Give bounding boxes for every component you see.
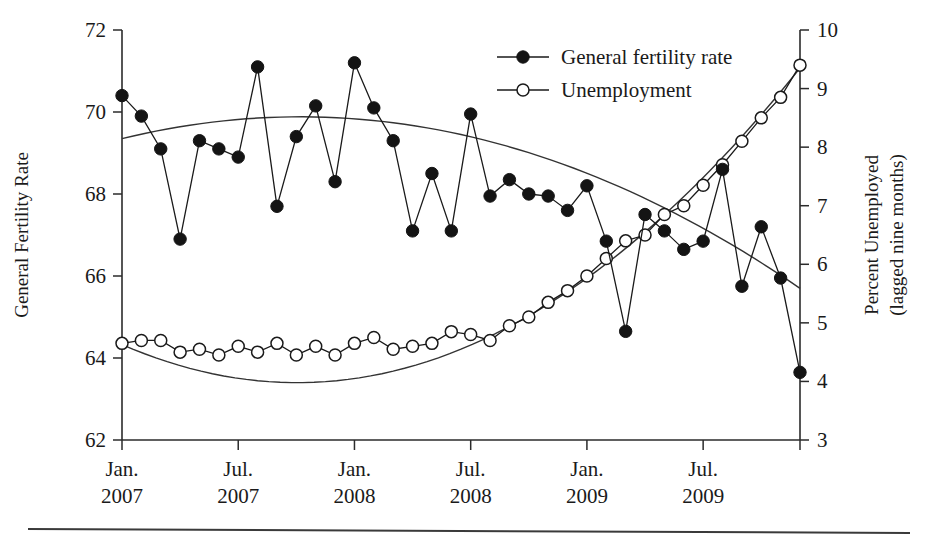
footer-divider xyxy=(28,529,910,533)
x-tick-label-month: Jan. xyxy=(570,457,603,481)
x-tick-label-month: Jul. xyxy=(456,457,486,481)
data-point-marker xyxy=(407,340,419,352)
x-tick-label-month: Jan. xyxy=(105,457,138,481)
data-point-marker xyxy=(484,190,496,202)
trend-lines-group xyxy=(122,68,800,383)
data-point-marker xyxy=(561,204,573,216)
right-tick-label: 3 xyxy=(817,428,828,452)
right-axis-title-line2: (lagged nine months) xyxy=(886,154,908,315)
left-axis-title: General Fertility Rate xyxy=(11,152,32,318)
data-point-marker xyxy=(503,320,515,332)
data-point-marker xyxy=(445,326,457,338)
x-tick-label-month: Jul. xyxy=(688,457,718,481)
data-point-marker xyxy=(310,100,322,112)
data-point-marker xyxy=(639,208,651,220)
data-point-marker xyxy=(116,89,128,101)
data-point-marker xyxy=(562,285,574,297)
left-axis: 727068666462 General Fertility Rate xyxy=(11,18,122,452)
right-axis-tick-labels: 109876543 xyxy=(817,18,838,452)
left-tick-label: 68 xyxy=(85,182,106,206)
x-axis-tick-labels: Jan.2007Jul.2007Jan.2008Jul.2008Jan.2009… xyxy=(101,457,724,508)
data-point-marker xyxy=(290,130,302,142)
data-point-marker xyxy=(716,163,728,175)
data-point-marker xyxy=(155,143,167,155)
series-general-fertility-rate xyxy=(116,57,806,379)
right-tick-label: 5 xyxy=(817,311,828,335)
right-tick-label: 9 xyxy=(817,77,828,101)
data-point-marker xyxy=(678,243,690,255)
data-point-marker xyxy=(232,340,244,352)
right-tick-label: 8 xyxy=(817,135,828,159)
x-tick-label-year: 2008 xyxy=(450,484,492,508)
data-point-marker xyxy=(329,176,341,188)
series-unemployment xyxy=(116,59,806,361)
data-point-marker xyxy=(348,57,360,69)
data-point-marker xyxy=(193,343,205,355)
data-point-marker xyxy=(116,337,128,349)
right-tick-label: 6 xyxy=(817,252,828,276)
data-point-marker xyxy=(310,340,322,352)
data-point-marker xyxy=(445,225,457,237)
data-point-marker xyxy=(135,110,147,122)
data-point-marker xyxy=(755,221,767,233)
data-point-marker xyxy=(581,270,593,282)
series-polyline xyxy=(122,63,800,373)
data-point-marker xyxy=(368,102,380,114)
data-point-marker xyxy=(290,349,302,361)
x-axis: Jan.2007Jul.2007Jan.2008Jul.2008Jan.2009… xyxy=(101,440,800,508)
data-point-marker xyxy=(387,135,399,147)
figure-container: 727068666462 General Fertility Rate 1098… xyxy=(0,0,937,550)
data-point-marker xyxy=(232,151,244,163)
data-point-marker xyxy=(251,61,263,73)
data-point-marker xyxy=(542,190,554,202)
right-axis-title-line1: Percent Unemployed xyxy=(861,155,882,315)
legend-label: Unemployment xyxy=(561,78,692,102)
right-tick-label: 4 xyxy=(817,369,828,393)
data-point-marker xyxy=(387,343,399,355)
data-point-marker xyxy=(135,334,147,346)
right-axis: 109876543 Percent Unemployed (lagged nin… xyxy=(800,18,908,452)
left-tick-label: 62 xyxy=(85,428,106,452)
data-point-marker xyxy=(794,366,806,378)
x-tick-label-year: 2009 xyxy=(682,484,724,508)
legend-label: General fertility rate xyxy=(561,45,732,69)
left-tick-label: 70 xyxy=(85,100,106,124)
data-point-marker xyxy=(523,311,535,323)
data-point-marker xyxy=(174,233,186,245)
data-point-marker xyxy=(774,272,786,284)
data-point-marker xyxy=(658,209,670,221)
chart-legend: General fertility rateUnemployment xyxy=(497,45,732,102)
legend-marker-filled-circle-icon xyxy=(517,51,529,63)
right-tick-label: 7 xyxy=(817,194,828,218)
data-point-marker xyxy=(542,296,554,308)
x-tick-label-year: 2009 xyxy=(566,484,608,508)
series-polyline xyxy=(122,65,800,355)
fertility-trend xyxy=(122,117,800,288)
data-point-marker xyxy=(794,59,806,71)
data-point-marker xyxy=(619,325,631,337)
x-tick-label-year: 2008 xyxy=(333,484,375,508)
fertility-unemployment-chart: 727068666462 General Fertility Rate 1098… xyxy=(0,0,937,550)
data-point-marker xyxy=(329,349,341,361)
data-point-marker xyxy=(271,337,283,349)
data-point-marker xyxy=(426,337,438,349)
data-point-marker xyxy=(252,346,264,358)
data-point-marker xyxy=(736,135,748,147)
data-point-marker xyxy=(697,235,709,247)
data-point-marker xyxy=(406,225,418,237)
data-point-marker xyxy=(600,235,612,247)
data-point-marker xyxy=(755,112,767,124)
data-point-marker xyxy=(464,108,476,120)
data-point-marker xyxy=(174,346,186,358)
data-point-marker xyxy=(271,200,283,212)
left-tick-label: 72 xyxy=(85,18,106,42)
data-point-marker xyxy=(678,200,690,212)
data-point-marker xyxy=(155,334,167,346)
x-tick-label-month: Jul. xyxy=(223,457,253,481)
x-tick-label-year: 2007 xyxy=(101,484,143,508)
data-point-marker xyxy=(368,332,380,344)
data-point-marker xyxy=(581,180,593,192)
left-tick-label: 66 xyxy=(85,264,106,288)
data-point-marker xyxy=(523,188,535,200)
data-point-marker xyxy=(658,225,670,237)
